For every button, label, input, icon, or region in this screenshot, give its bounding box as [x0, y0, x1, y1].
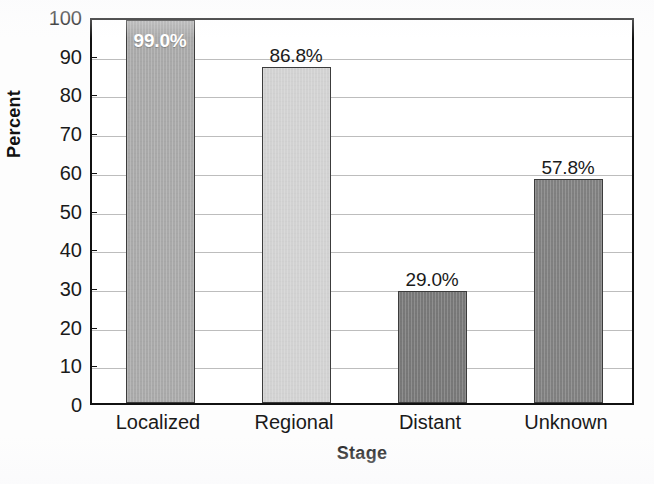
y-axis-tick-mark: [90, 328, 97, 329]
y-axis-tick-label: 50: [4, 202, 82, 222]
y-axis-tick-label: 20: [4, 318, 82, 338]
y-axis-tick-label: 0: [4, 395, 82, 415]
y-axis-tick-label: 70: [4, 124, 82, 144]
y-axis-tick-mark: [90, 95, 97, 96]
y-axis-tick-label: 30: [4, 279, 82, 299]
y-axis-tick-mark: [90, 57, 97, 58]
y-axis-tick-label: 100: [4, 8, 82, 28]
bar-value-label: 99.0%: [114, 31, 207, 50]
x-axis-tick-label: Regional: [224, 412, 364, 432]
y-axis-tick-mark: [90, 366, 97, 367]
chart-figure: Percent 1009080706050403020100 99.0%86.8…: [0, 0, 654, 484]
y-axis-tick-label: 90: [4, 47, 82, 67]
bar: [126, 20, 195, 403]
bar: [398, 291, 467, 403]
y-axis-tick-label: 60: [4, 163, 82, 183]
bar-texture: [535, 180, 602, 402]
y-axis-tick-label: 80: [4, 85, 82, 105]
y-axis-tick-labels: 1009080706050403020100: [0, 0, 82, 484]
y-axis-tick-mark: [90, 212, 97, 213]
plot-area: 99.0%86.8%29.0%57.8%: [90, 18, 634, 405]
bar-texture: [127, 21, 194, 402]
y-axis-tick-label: 10: [4, 356, 82, 376]
bar-value-label: 86.8%: [250, 46, 343, 65]
bar-texture: [399, 292, 466, 402]
bar-value-label: 57.8%: [522, 158, 615, 177]
bar: [262, 67, 331, 403]
bar-value-label: 29.0%: [386, 270, 479, 289]
y-axis-tick-mark: [90, 173, 97, 174]
y-axis-tick-mark: [90, 289, 97, 290]
bar: [534, 179, 603, 403]
x-axis-tick-label: Localized: [88, 412, 228, 432]
x-axis-tick-label: Distant: [360, 412, 500, 432]
x-axis-title: Stage: [90, 443, 634, 464]
bar-texture: [263, 68, 330, 402]
x-axis-tick-label: Unknown: [496, 412, 636, 432]
y-axis-tick-mark: [90, 250, 97, 251]
y-axis-tick-label: 40: [4, 240, 82, 260]
y-axis-tick-mark: [90, 134, 97, 135]
